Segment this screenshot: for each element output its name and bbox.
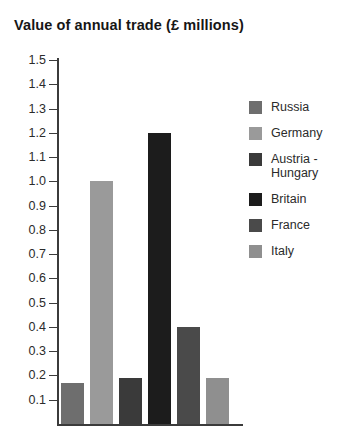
y-axis-tick xyxy=(49,303,57,304)
y-axis-tick-label: 1.0 xyxy=(2,174,46,188)
legend-item-label: Italy xyxy=(271,244,294,258)
y-axis-tick xyxy=(49,278,57,279)
y-axis-tick-label: 0.5 xyxy=(2,296,46,310)
y-axis-tick xyxy=(49,254,57,255)
y-axis-tick-label: 1.4 xyxy=(2,77,46,91)
y-axis-tick-label: 0.8 xyxy=(2,223,46,237)
y-axis-tick xyxy=(49,230,57,231)
y-axis-tick xyxy=(49,375,57,376)
legend-swatch-icon xyxy=(249,127,262,140)
y-axis-tick xyxy=(49,206,57,207)
bar-britain xyxy=(148,133,171,424)
y-axis-tick-label: 0.9 xyxy=(2,199,46,213)
y-axis-tick-label: 0.3 xyxy=(2,344,46,358)
legend-swatch-icon xyxy=(249,219,262,232)
y-axis-tick xyxy=(49,60,57,61)
y-axis-tick-label: 0.4 xyxy=(2,320,46,334)
bar-chart-figure: Value of annual trade (£ millions) 1.51.… xyxy=(0,0,346,443)
legend-item: Austria - Hungary xyxy=(249,152,345,180)
y-axis-tick-label: 0.1 xyxy=(2,393,46,407)
legend-item-label: Austria - Hungary xyxy=(271,152,318,180)
y-axis-tick-label: 0.6 xyxy=(2,271,46,285)
y-axis-tick xyxy=(49,351,57,352)
y-axis-tick xyxy=(49,133,57,134)
legend-item-label: Germany xyxy=(271,126,322,140)
x-axis-line xyxy=(57,424,243,426)
y-axis-tick-label: 0.2 xyxy=(2,368,46,382)
y-axis-tick-label: 1.2 xyxy=(2,126,46,140)
bar-russia xyxy=(61,383,84,424)
bar-germany xyxy=(90,181,113,424)
y-axis-tick-label: 1.3 xyxy=(2,102,46,116)
legend-item: Russia xyxy=(249,100,345,114)
y-axis-tick xyxy=(49,109,57,110)
legend-item-label: Britain xyxy=(271,192,306,206)
y-axis-tick xyxy=(49,181,57,182)
legend-item-label: Russia xyxy=(271,100,309,114)
y-axis-tick-label: 1.5 xyxy=(2,53,46,67)
y-axis-tick-label: 1.1 xyxy=(2,150,46,164)
legend-swatch-icon xyxy=(249,101,262,114)
y-axis-tick xyxy=(49,157,57,158)
legend-item: Italy xyxy=(249,244,345,258)
legend-swatch-icon xyxy=(249,193,262,206)
legend-swatch-icon xyxy=(249,245,262,258)
y-axis-tick xyxy=(49,400,57,401)
bar-italy xyxy=(206,378,229,424)
y-axis-tick-label: 0.7 xyxy=(2,247,46,261)
legend-swatch-icon xyxy=(249,153,262,166)
bar-france xyxy=(177,327,200,424)
y-axis-tick xyxy=(49,84,57,85)
y-axis-tick xyxy=(49,327,57,328)
chart-title: Value of annual trade (£ millions) xyxy=(14,17,244,33)
chart-legend: RussiaGermanyAustria - HungaryBritainFra… xyxy=(249,100,345,270)
bar-austria-hungary xyxy=(119,378,142,424)
plot-area xyxy=(59,55,231,424)
legend-item: Germany xyxy=(249,126,345,140)
legend-item-label: France xyxy=(271,218,310,232)
legend-item: France xyxy=(249,218,345,232)
legend-item: Britain xyxy=(249,192,345,206)
